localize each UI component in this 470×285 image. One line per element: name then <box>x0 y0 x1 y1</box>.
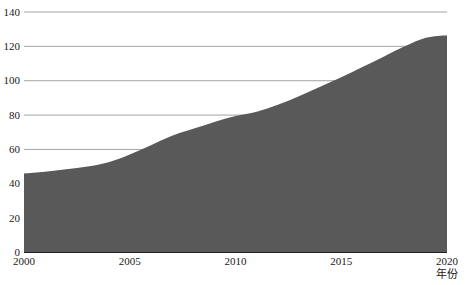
area-series-path <box>24 35 447 252</box>
x-tick-label: 2020 <box>425 256 469 267</box>
y-tick-label: 100 <box>0 75 20 86</box>
x-tick-label: 2000 <box>2 256 46 267</box>
y-tick-label: 60 <box>0 144 20 155</box>
chart-plot-area <box>0 0 470 285</box>
y-tick-label: 140 <box>0 7 20 18</box>
y-tick-label: 120 <box>0 41 20 52</box>
y-tick-label: 20 <box>0 213 20 224</box>
y-tick-label: 80 <box>0 110 20 121</box>
x-tick-label: 2015 <box>319 256 363 267</box>
x-axis-title: 年份 <box>425 269 469 281</box>
y-tick-label: 40 <box>0 178 20 189</box>
area-chart: 020406080100120140 20002005201020152020 … <box>0 0 470 285</box>
x-tick-label: 2005 <box>108 256 152 267</box>
x-tick-label: 2010 <box>214 256 258 267</box>
